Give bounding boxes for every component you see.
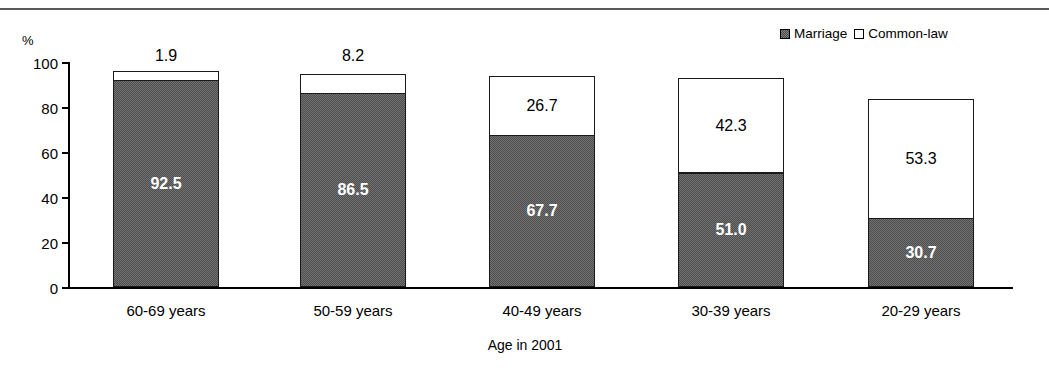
y-tick-60: [62, 152, 70, 154]
bar-label-marriage-20-29: 30.7: [869, 245, 973, 261]
y-tick-80: [62, 107, 70, 109]
chart-figure: Marriage Common-law % 100 80 60 40 20 0 …: [0, 0, 1049, 383]
x-category-label-30-39: 30-39 years: [646, 303, 816, 318]
y-tick-label-40: 40: [14, 191, 58, 206]
y-tick-label-100: 100: [14, 56, 58, 71]
x-axis-line: [68, 287, 1013, 289]
x-category-label-60-69: 60-69 years: [81, 303, 251, 318]
bar-label-marriage-50-59: 86.5: [301, 182, 405, 198]
bar-common-law-50-59[interactable]: [300, 74, 406, 94]
bar-label-common-law-30-39: 42.3: [679, 118, 783, 134]
bar-marriage-20-29[interactable]: 30.7: [868, 218, 974, 287]
bar-marriage-60-69[interactable]: 92.5: [113, 80, 219, 287]
bar-common-law-40-49[interactable]: 26.7: [489, 76, 595, 136]
y-tick-label-80: 80: [14, 101, 58, 116]
bar-common-law-30-39[interactable]: 42.3: [678, 78, 784, 173]
y-tick-label-0: 0: [14, 281, 58, 296]
x-category-label-40-49: 40-49 years: [457, 303, 627, 318]
y-tick-0: [62, 287, 70, 289]
x-axis-title: Age in 2001: [425, 338, 625, 352]
plot-area: 100 80 60 40 20 0 92.5 1.9 60-69 years 8…: [0, 0, 1049, 383]
y-tick-20: [62, 242, 70, 244]
bar-label-common-law-50-59: 8.2: [293, 48, 413, 64]
bar-label-marriage-40-49: 67.7: [490, 203, 594, 219]
bar-label-common-law-20-29: 53.3: [869, 151, 973, 167]
bar-label-common-law-40-49: 26.7: [490, 98, 594, 114]
y-axis-line: [68, 62, 70, 289]
bar-label-marriage-60-69: 92.5: [114, 176, 218, 192]
bar-label-common-law-60-69: 1.9: [106, 48, 226, 64]
bar-marriage-40-49[interactable]: 67.7: [489, 135, 595, 287]
bar-common-law-20-29[interactable]: 53.3: [868, 99, 974, 219]
x-category-label-20-29: 20-29 years: [836, 303, 1006, 318]
bar-label-marriage-30-39: 51.0: [679, 222, 783, 238]
y-tick-label-60: 60: [14, 146, 58, 161]
x-category-label-50-59: 50-59 years: [268, 303, 438, 318]
y-tick-100: [62, 62, 70, 64]
bar-common-law-60-69[interactable]: [113, 71, 219, 81]
bar-marriage-30-39[interactable]: 51.0: [678, 173, 784, 287]
y-tick-label-20: 20: [14, 236, 58, 251]
bar-marriage-50-59[interactable]: 86.5: [300, 93, 406, 287]
y-tick-40: [62, 197, 70, 199]
